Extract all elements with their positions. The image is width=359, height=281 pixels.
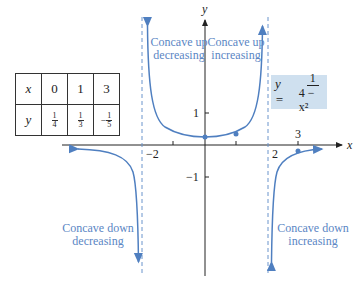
point-3-neg-fifth bbox=[296, 149, 301, 154]
table-cell: 0 bbox=[42, 74, 68, 105]
x-ticks bbox=[173, 141, 298, 145]
equation-label: y = 1 4 − x² bbox=[271, 75, 327, 109]
tick-label-x-3: 3 bbox=[295, 127, 301, 142]
tick-label-y-1: 1 bbox=[193, 106, 199, 121]
table-cell: −15 bbox=[94, 105, 120, 136]
axis-label-y: y bbox=[202, 2, 207, 17]
table-row-x: x 0 1 3 bbox=[16, 74, 120, 105]
values-table: x 0 1 3 y 14 13 −15 bbox=[15, 73, 120, 136]
label-concave-down-increasing: Concave down increasing bbox=[273, 222, 353, 248]
table-cell: 13 bbox=[68, 105, 94, 136]
table-cell: 3 bbox=[94, 74, 120, 105]
table-header-y: y bbox=[16, 105, 42, 136]
table-row-y: y 14 13 −15 bbox=[16, 105, 120, 136]
axis-label-x: x bbox=[347, 138, 352, 153]
tick-label-y-neg1: −1 bbox=[186, 170, 199, 185]
tick-label-x-neg2: −2 bbox=[146, 147, 159, 162]
point-0-quarter bbox=[203, 135, 208, 140]
point-1-third bbox=[234, 132, 239, 137]
table-cell: 1 bbox=[68, 74, 94, 105]
table-cell: 14 bbox=[42, 105, 68, 136]
label-concave-up-increasing: Concave up increasing bbox=[203, 36, 269, 62]
tick-label-x-2: 2 bbox=[272, 147, 278, 162]
label-concave-down-decreasing: Concave down decreasing bbox=[58, 222, 138, 248]
table-header-x: x bbox=[16, 74, 42, 105]
